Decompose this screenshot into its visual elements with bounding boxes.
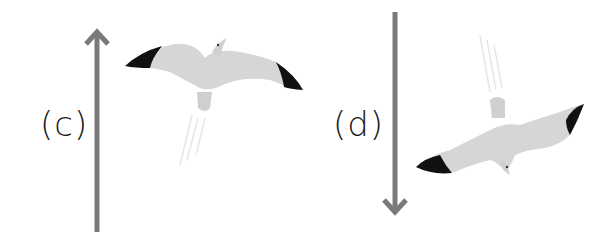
bird-up-icon: [125, 38, 303, 165]
up-arrow-icon: [86, 32, 108, 232]
diagram-canvas: [0, 0, 610, 240]
bird-down-icon: [416, 35, 584, 175]
down-arrow-icon: [384, 12, 406, 212]
